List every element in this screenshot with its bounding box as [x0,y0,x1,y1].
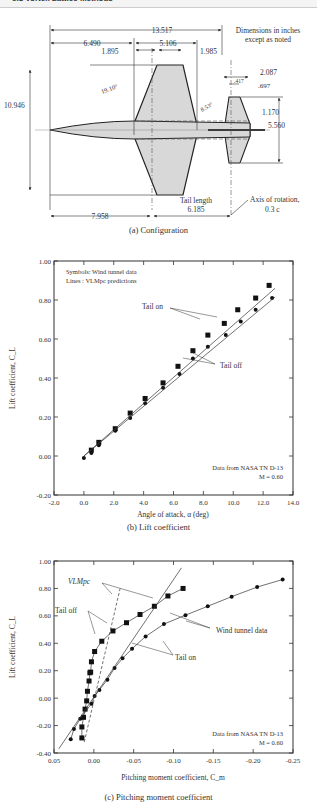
svg-text:10.0: 10.0 [227,499,240,507]
svg-text:-2.0: -2.0 [48,499,60,507]
svg-text:-0.40: -0.40 [36,750,51,758]
label-wind-tunnel: Wind tunnel data [216,626,268,635]
chart-c-series [59,568,285,749]
svg-text:0.60: 0.60 [39,336,52,344]
svg-text:-0.10: -0.10 [166,757,181,765]
label-tail-off: Tail off [55,606,78,615]
lift-coefficient-chart: -2.00.02.04.06.08.010.012.014.0-0.200.00… [0,245,317,535]
caption-lift-coefficient: (b) Lift coefficient [0,522,317,532]
svg-text:0.00: 0.00 [39,695,52,703]
chart-b-xlabel: Angle of attack, α (deg) [137,510,209,519]
dim-root-chord: 5.106 [160,39,177,48]
dim-tail-4: 1.170 [262,108,279,117]
svg-text:0.00: 0.00 [88,757,101,765]
chart-c-ylabel: Lift coefficient, C_L [8,616,17,679]
svg-text:2.0: 2.0 [109,499,118,507]
svg-text:0.80: 0.80 [39,585,52,593]
svg-text:0.05: 0.05 [48,757,61,765]
dim-nose-to-axis: 7.958 [92,212,109,221]
pitching-moment-chart: 0.050.00-0.05-0.10-0.15-0.20-0.25-0.40-0… [0,550,317,800]
dim-span: 10.946 [4,101,25,110]
svg-text:1.00: 1.00 [39,558,52,566]
axis-label-line1: Axis of rotation, [250,195,299,204]
svg-text:-0.20: -0.20 [36,722,51,730]
dim-te-offset: 1.985 [200,47,217,56]
label-tail-on: Tail on [142,302,163,311]
svg-text:0.40: 0.40 [39,375,52,383]
svg-text:4.0: 4.0 [139,499,148,507]
label-mach: M = 0.60 [259,473,283,480]
legend-symbols: Symbols: Wind tunnel data [66,268,137,275]
chart-c-xlabel: Pitching moment coefficient, C_m [121,773,225,782]
svg-text:-0.25: -0.25 [286,757,301,765]
legend-lines: Lines : VLMpc predictions [66,277,137,284]
label-tail-on: Tail on [175,653,196,662]
svg-text:8.0: 8.0 [199,499,208,507]
svg-text:0.20: 0.20 [39,667,52,675]
svg-text:14.0: 14.0 [287,499,300,507]
dims-note-line1: Dimensions in inches [236,26,301,35]
svg-text:0.40: 0.40 [39,640,52,648]
tail-length-value: 6.185 [188,205,205,214]
svg-text:0.60: 0.60 [39,612,52,620]
svg-text:-0.15: -0.15 [206,757,221,765]
svg-text:0.80: 0.80 [39,297,52,305]
label-mach: M = 0.60 [259,739,283,746]
dim-tail-1: 2.087 [260,68,277,77]
svg-text:0.00: 0.00 [39,453,52,461]
svg-text:-0.20: -0.20 [36,492,51,500]
label-tail-off: Tail off [220,361,243,370]
label-data-source: Data from NASA TN D-13 [212,730,283,737]
dim-tail-2: .417 [234,78,244,84]
dim-tail-3: .697 [258,82,271,90]
svg-text:0.20: 0.20 [39,414,52,422]
caption-pitching-moment: (c) Pitching moment coefficient [0,792,317,802]
svg-text:0.0: 0.0 [80,499,89,507]
chart-b-ylabel: Lift coefficient, C_L [8,347,17,410]
dim-le-offset: 1.895 [102,47,119,56]
dim-nose-to-wing: 6.490 [84,39,101,48]
axis-label-line2: 0.3 c [265,205,280,214]
caption-configuration: (a) Configuration [0,225,317,235]
chart-c-annotations [88,583,210,655]
svg-text:12.0: 12.0 [257,499,270,507]
label-data-source: Data from NASA TN D-13 [212,464,283,471]
svg-text:-0.05: -0.05 [126,757,141,765]
svg-text:-0.20: -0.20 [246,757,261,765]
dim-overall-length: 13.517 [152,26,173,35]
dim-wing-sweep: 19.10° [100,82,119,95]
configuration-drawing: 13.517 6.490 5.106 1.895 1.985 10.946 19… [0,0,317,230]
svg-text:6.0: 6.0 [169,499,178,507]
svg-text:1.00: 1.00 [39,258,52,266]
dim-tail-sweep: 8.53° [200,101,215,113]
dim-tail-span: 5.560 [268,121,285,130]
tail-length-label: Tail length [180,196,212,205]
dims-note-line2: except as noted [245,35,291,44]
label-vlmpc: VLMpc [68,577,91,586]
